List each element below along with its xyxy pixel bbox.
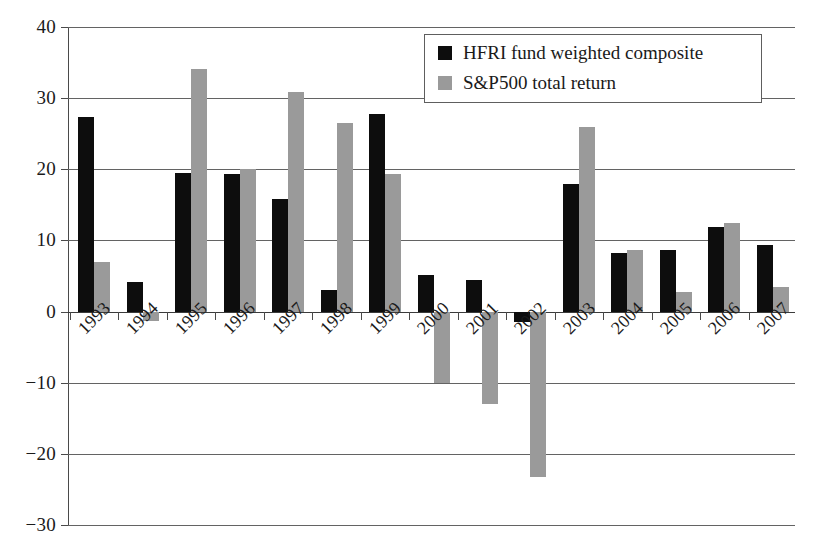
bar-group-1993: [78, 27, 110, 525]
x-tick-mark-1997: [264, 312, 265, 320]
bar-1997-hfri: [272, 199, 288, 311]
bar-2007-hfri: [757, 245, 773, 312]
x-tick-mark-2004: [603, 312, 604, 320]
x-tick-mark-2006: [700, 312, 701, 320]
bar-group-1995: [175, 27, 207, 525]
legend-item-hfri: HFRI fund weighted composite: [438, 43, 703, 62]
bar-group-1997: [272, 27, 304, 525]
bar-group-1998: [321, 27, 353, 525]
legend-swatch-icon-hfri: [438, 46, 452, 60]
bar-2003-hfri: [563, 184, 579, 311]
gridline--30: [68, 525, 795, 526]
x-tick-mark-1994: [118, 312, 119, 320]
legend-label-sp500: S&P500 total return: [463, 73, 616, 92]
legend-swatch-icon-sp500: [438, 76, 452, 90]
bar-2004-hfri: [611, 253, 627, 312]
y-tick-label-20: 20: [36, 158, 56, 180]
bar-2003-sp500: [579, 127, 595, 312]
x-tick-mark-2003: [555, 312, 556, 320]
y-tick-label--30: −30: [25, 514, 56, 536]
bar-1993-hfri: [78, 117, 94, 312]
y-tick-label-0: 0: [46, 301, 56, 323]
x-tick-mark-2001: [458, 312, 459, 320]
x-tick-mark-2000: [409, 312, 410, 320]
x-tick-mark-1999: [361, 312, 362, 320]
bar-1996-sp500: [240, 169, 256, 311]
x-tick-mark-1998: [312, 312, 313, 320]
x-tick-mark-2007: [749, 312, 750, 320]
bar-1996-hfri: [224, 174, 240, 311]
legend: HFRI fund weighted composite S&P500 tota…: [424, 34, 762, 103]
bar-2006-sp500: [724, 223, 740, 311]
x-tick-mark-2002: [506, 312, 507, 320]
bar-group-1994: [127, 27, 159, 525]
bar-1995-hfri: [175, 173, 191, 312]
x-tick-mark-1996: [215, 312, 216, 320]
bar-1998-sp500: [337, 123, 353, 312]
bar-group-1999: [369, 27, 401, 525]
x-tick-mark-1993: [70, 312, 71, 320]
bar-1999-hfri: [369, 114, 385, 312]
y-tick-label--20: −20: [25, 443, 56, 465]
x-tick-mark-2005: [652, 312, 653, 320]
legend-item-sp500: S&P500 total return: [438, 73, 616, 92]
y-tick-label-10: 10: [36, 229, 56, 251]
bar-2002-sp500: [530, 312, 546, 478]
y-tick-label-30: 30: [36, 87, 56, 109]
bar-chart: 403020100−10−20−30 199319941995199619971…: [0, 0, 819, 559]
bar-1997-sp500: [288, 92, 304, 312]
bar-group-1996: [224, 27, 256, 525]
bar-1999-sp500: [385, 174, 401, 312]
y-tick-label-40: 40: [36, 16, 56, 38]
x-tick-mark-1995: [167, 312, 168, 320]
bar-1995-sp500: [191, 69, 207, 312]
bar-2006-hfri: [708, 227, 724, 312]
bar-2005-hfri: [660, 250, 676, 312]
y-tick-label--10: −10: [25, 372, 56, 394]
legend-label-hfri: HFRI fund weighted composite: [463, 43, 703, 62]
y-axis-labels: 403020100−10−20−30: [0, 0, 56, 559]
